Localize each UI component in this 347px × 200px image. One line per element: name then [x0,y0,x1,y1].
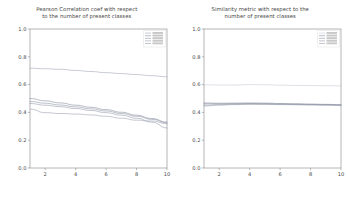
y-tick-label: 0.8 [18,54,26,60]
series-line-series-1 [30,68,167,77]
series-line-series-1 [204,85,341,86]
legend-label-series-5 [153,42,164,44]
x-tick-label: 10 [337,171,343,177]
legend-label-series-4 [153,40,164,42]
y-tick-label: 0.2 [192,137,200,143]
x-tick-label: 4 [248,171,251,177]
x-tick-label: 10 [164,171,170,177]
figure-container: Pearson Correlation coef with respect to… [0,0,347,200]
series-line-series-5 [30,109,167,124]
legend-label-series-1 [326,32,337,34]
legend-label-series-2 [153,35,164,37]
x-tick-label: 2 [44,171,47,177]
x-tick-label: 6 [278,171,281,177]
y-tick-label: 0.2 [18,137,26,143]
legend-label-series-3 [153,37,164,39]
legend-label-series-1 [153,32,164,34]
x-tick-label: 8 [135,171,138,177]
y-tick-label: 0.0 [18,165,26,171]
plot-area-right: 0.00.20.40.60.81.0246810 [174,0,347,200]
axis-frame [204,29,341,168]
y-tick-label: 0.8 [192,54,200,60]
y-tick-label: 0.6 [192,81,200,87]
x-tick-label: 2 [217,171,220,177]
x-tick-label: 6 [104,171,107,177]
legend-label-series-2 [326,35,337,37]
plot-area-left: 0.00.20.40.60.81.0246810 [0,0,174,200]
x-tick-label: 4 [74,171,77,177]
y-tick-label: 0.0 [192,165,200,171]
legend-label-series-5 [326,42,337,44]
series-line-series-3 [30,101,167,122]
chart-panel-left: Pearson Correlation coef with respect to… [0,0,174,200]
legend-label-series-3 [326,37,337,39]
y-tick-label: 0.4 [18,109,26,115]
y-tick-label: 0.4 [192,109,200,115]
legend-label-series-4 [326,40,337,42]
y-tick-label: 0.6 [18,81,26,87]
axis-frame [30,29,167,168]
chart-panel-right: Similarity metric with respect to the nu… [174,0,347,200]
x-tick-label: 8 [308,171,311,177]
y-tick-label: 1.0 [192,26,200,32]
y-tick-label: 1.0 [18,26,26,32]
